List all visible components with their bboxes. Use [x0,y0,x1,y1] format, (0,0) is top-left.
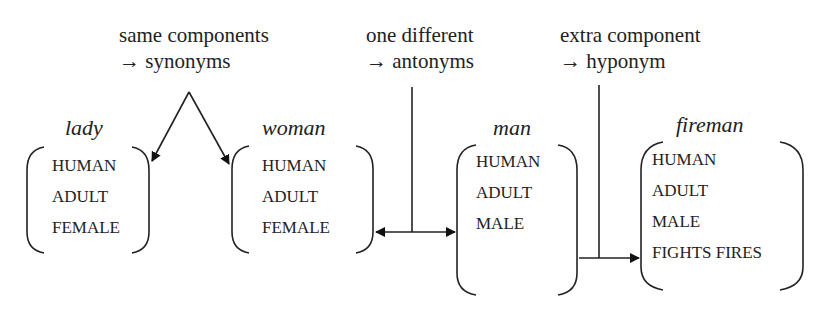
feature-item: HUMAN [52,150,120,181]
annotation-antonyms-line1: one different [366,22,474,48]
feature-item: MALE [476,208,540,239]
word-man: man [493,115,531,141]
annotation-synonyms-line2: → synonyms [119,48,269,74]
semantic-components-diagram: same components → synonyms one different… [0,0,827,310]
feature-item: ADULT [652,175,762,206]
feature-item: FEMALE [262,212,330,243]
feature-list-lady: HUMAN ADULT FEMALE [52,150,120,243]
feature-item: ADULT [262,181,330,212]
feature-list-fireman: HUMAN ADULT MALE FIGHTS FIRES [652,144,762,268]
annotation-synonyms-line1: same components [119,22,269,48]
annotation-hyponym-line2: → hyponym [560,48,701,74]
word-lady: lady [65,115,103,141]
feature-item: MALE [652,206,762,237]
annotation-hyponym-line1: extra component [560,22,701,48]
feature-item: ADULT [476,177,540,208]
feature-item: FIGHTS FIRES [652,237,762,268]
annotation-antonyms: one different → antonyms [366,22,474,74]
annotation-antonyms-line2: → antonyms [366,48,474,74]
feature-list-man: HUMAN ADULT MALE [476,146,540,239]
feature-list-woman: HUMAN ADULT FEMALE [262,150,330,243]
feature-item: HUMAN [652,144,762,175]
feature-item: HUMAN [476,146,540,177]
word-fireman: fireman [676,112,744,138]
feature-item: FEMALE [52,212,120,243]
annotation-hyponym: extra component → hyponym [560,22,701,74]
word-woman: woman [262,115,326,141]
feature-item: HUMAN [262,150,330,181]
annotation-synonyms: same components → synonyms [119,22,269,74]
feature-item: ADULT [52,181,120,212]
